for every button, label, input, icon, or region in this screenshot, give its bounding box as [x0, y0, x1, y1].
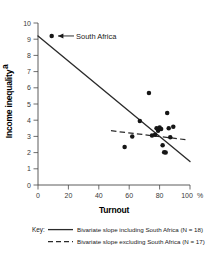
- data-point: [163, 150, 168, 155]
- data-point: [153, 133, 158, 138]
- x-tick-label-80: 80: [156, 192, 164, 199]
- data-point: [165, 111, 170, 116]
- data-point: [147, 91, 152, 96]
- y-tick-label-5: 5: [27, 101, 31, 108]
- y-tick-label-3: 3: [27, 133, 31, 140]
- south-africa-callout: South Africa: [58, 32, 117, 41]
- y-axis-title-text: Income inequality: [4, 69, 14, 138]
- x-tick-label-0: 0: [36, 192, 40, 199]
- y-axis-ticks: [34, 23, 39, 185]
- data-point: [166, 126, 171, 131]
- legend-key-label: Key:: [32, 226, 45, 234]
- data-point: [130, 134, 135, 139]
- regression-line-excluding-south-africa: [111, 131, 185, 140]
- regression-line-including-south-africa: [38, 36, 190, 162]
- south-africa-label: South Africa: [76, 32, 117, 41]
- y-tick-label-8: 8: [27, 52, 31, 59]
- y-tick-label-10: 10: [23, 20, 31, 27]
- data-point: [122, 145, 127, 150]
- y-tick-label-1: 1: [27, 165, 31, 172]
- y-axis-title-superscript: a: [0, 64, 10, 69]
- x-axis-title: Turnout: [99, 205, 129, 215]
- data-point-south-africa: [49, 34, 54, 39]
- y-axis-title: Income inequality a: [0, 64, 14, 138]
- data-point: [171, 124, 176, 128]
- y-tick-label-6: 6: [27, 84, 31, 91]
- data-point: [168, 135, 173, 140]
- x-axis-unit: %: [197, 192, 203, 199]
- x-axis-ticks: [38, 185, 190, 190]
- legend-entry-label-including: Bivariate slope including South Africa (…: [77, 226, 203, 233]
- x-tick-label-100: 100: [181, 192, 193, 199]
- callout-arrow-icon: [58, 34, 63, 39]
- data-point: [159, 127, 164, 132]
- x-tick-label-40: 40: [95, 192, 103, 199]
- data-point: [160, 143, 165, 148]
- chart-legend: Key: Bivariate slope including South Afr…: [32, 226, 205, 245]
- x-tick-label-60: 60: [125, 192, 133, 199]
- data-point: [138, 119, 143, 124]
- y-tick-label-4: 4: [27, 117, 31, 124]
- x-tick-label-20: 20: [65, 192, 73, 199]
- y-tick-label-9: 9: [27, 36, 31, 43]
- chart-figure: 10 9 8 7 6 5 4 3 2 1 0 Income inequality…: [0, 0, 218, 255]
- y-tick-label-7: 7: [27, 68, 31, 75]
- y-tick-label-2: 2: [27, 149, 31, 156]
- scatter-plot-svg: 10 9 8 7 6 5 4 3 2 1 0 Income inequality…: [0, 0, 218, 255]
- legend-entry-label-excluding: Bivariate slope excluding South Africa (…: [77, 238, 205, 245]
- y-tick-label-0: 0: [27, 182, 31, 189]
